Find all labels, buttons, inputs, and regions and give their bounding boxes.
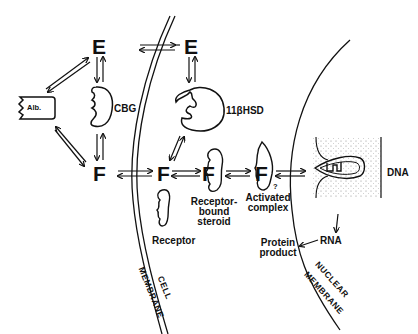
receptor-label: Receptor <box>152 236 195 246</box>
dna-region <box>313 137 381 198</box>
receptor-bound-steroid-label: Receptor- bound steroid <box>186 197 242 227</box>
question-mark: ? <box>273 183 278 191</box>
11bhsd-shape <box>176 87 224 131</box>
cbg-shape <box>91 87 112 127</box>
receptor-shape <box>157 190 170 226</box>
11bhsd-label: 11βHSD <box>226 106 264 116</box>
activated-complex-label: Activated complex <box>242 193 294 213</box>
cortisol-inside-label: F <box>157 163 170 184</box>
albumin-label: Alb. <box>27 104 41 112</box>
receptor-bound-cortisol-label: F <box>202 163 215 184</box>
rna-label: RNA <box>320 236 342 246</box>
cortisone-inside-label: E <box>184 36 198 57</box>
cbg-label: CBG <box>114 104 136 114</box>
cortisol-outside-label: F <box>93 163 106 184</box>
dna-label: DNA <box>387 168 409 178</box>
protein-product-label: Protein product <box>254 238 302 258</box>
activated-cortisol-label: F <box>255 163 268 184</box>
steroid-action-diagram: E E F F F F Alb. CBG 11βHSD Receptor Rec… <box>0 0 418 334</box>
cortisone-outside-label: E <box>92 36 106 57</box>
